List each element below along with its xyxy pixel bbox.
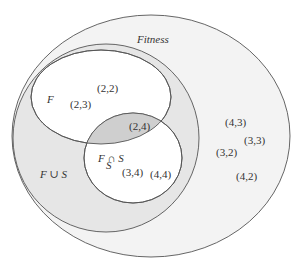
f-label: F <box>46 93 54 105</box>
union-label: F ∪ S <box>39 168 67 180</box>
point-4-3: (4,3) <box>225 116 246 129</box>
s-label: S <box>106 159 112 171</box>
point-3-3: (3,3) <box>244 134 265 147</box>
point-2-4: (2,4) <box>129 120 150 133</box>
point-4-4: (4,4) <box>150 168 171 181</box>
point-2-3: (2,3) <box>70 98 91 111</box>
venn-diagram: Fitness F F ∩ S S F ∪ S (2,2) (2,3) (2,4… <box>0 0 299 267</box>
point-3-4: (3,4) <box>122 166 143 179</box>
point-2-2: (2,2) <box>97 82 118 95</box>
point-4-2: (4,2) <box>236 170 257 183</box>
point-3-2: (3,2) <box>216 146 237 159</box>
fitness-label: Fitness <box>136 33 169 45</box>
